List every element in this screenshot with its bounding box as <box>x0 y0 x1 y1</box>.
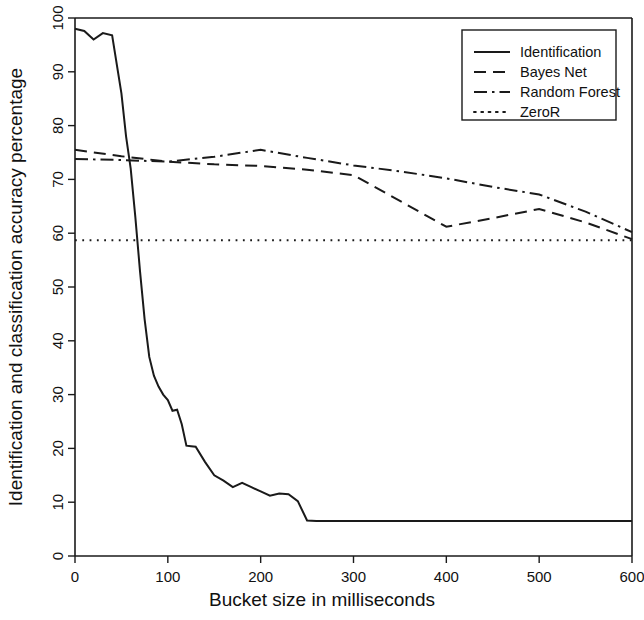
legend-label-identification: Identification <box>520 44 601 60</box>
y-tick-label: 30 <box>49 386 66 403</box>
y-tick-label: 50 <box>49 279 66 296</box>
legend-label-random-forest: Random Forest <box>520 84 620 100</box>
y-tick-label: 90 <box>49 63 66 80</box>
x-tick-label: 600 <box>619 568 644 585</box>
x-tick-label: 200 <box>248 568 273 585</box>
x-tick-label: 500 <box>527 568 552 585</box>
y-tick-label: 20 <box>49 440 66 457</box>
line-chart: 0102030405060708090100 01002003004005006… <box>0 0 644 620</box>
x-tick-label: 300 <box>341 568 366 585</box>
y-tick-label: 80 <box>49 117 66 134</box>
chart-legend: IdentificationBayes NetRandom ForestZero… <box>462 30 620 120</box>
x-tick-label: 400 <box>434 568 459 585</box>
y-tick-label: 100 <box>49 5 66 30</box>
x-tick-label: 100 <box>155 568 180 585</box>
y-tick-label: 0 <box>49 552 66 560</box>
y-tick-label: 10 <box>49 494 66 511</box>
y-tick-label: 40 <box>49 332 66 349</box>
y-tick-label: 60 <box>49 225 66 242</box>
series-line-random-forest <box>75 150 632 232</box>
y-axis-title: Identification and classification accura… <box>5 68 26 506</box>
y-axis-ticks: 0102030405060708090100 <box>49 5 75 560</box>
chart-figure: 0102030405060708090100 01002003004005006… <box>0 0 644 620</box>
series-line-bayes-net <box>75 150 632 239</box>
x-axis-title: Bucket size in milliseconds <box>209 589 435 610</box>
legend-label-bayes-net: Bayes Net <box>520 64 587 80</box>
x-tick-label: 0 <box>71 568 79 585</box>
x-axis-ticks: 0100200300400500600 <box>71 556 644 585</box>
legend-label-zeror: ZeroR <box>520 104 560 120</box>
y-tick-label: 70 <box>49 171 66 188</box>
